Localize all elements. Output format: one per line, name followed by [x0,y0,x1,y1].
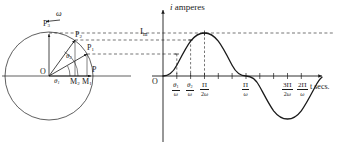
sine-wave-chart-group [152,10,322,142]
peak-value-label: Im [140,27,147,37]
phasor-circle-group [2,20,335,120]
point-label-P3: P3 [43,20,50,29]
tick-label-theta2-over-omega: θ2ω [186,80,194,97]
tick-label-2pi-over-omega: 2Πω [297,80,308,97]
foot-label-M1: M1 [82,78,92,87]
sine-wave-generation-figure: ω P3 P2 P1 P O θ1 θ2 M2 M1 i amperes Im … [0,0,342,145]
angle-arc-theta1 [68,66,70,76]
figure-drawing [0,0,342,145]
chart-x-axis-label: t secs. [310,83,330,91]
angle-label-theta2: θ2 [66,53,72,61]
tick-label-3pi-over-2omega: 3Π2ω [282,80,293,97]
angle-label-theta1: θ1 [54,78,60,86]
tick-label-pi-over-omega: Πω [242,80,249,97]
point-label-P: P [92,66,96,74]
foot-label-M2: M2 [70,78,80,87]
chart-origin-label: O [152,78,158,86]
point-label-P2: P2 [75,31,82,40]
point-label-P1: P1 [87,44,94,53]
tick-label-pi-over-2omega: Π2ω [200,80,209,97]
chart-y-axis-label: i amperes [170,3,205,12]
phasor-origin-label: O [40,68,46,76]
omega-label: ω [56,10,62,18]
tick-label-theta1-over-omega: θ1ω [172,80,180,97]
